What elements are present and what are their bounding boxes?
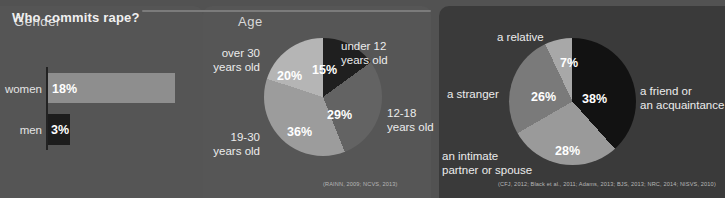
pie-label-under12: under 12years old <box>341 40 388 67</box>
pie-slice-value-stranger: 26% <box>531 90 556 104</box>
pie-label-12-18: 12-18years old <box>387 107 434 134</box>
bar-category-women: women <box>0 83 42 95</box>
pie-slice-value-19-30: 36% <box>287 125 312 139</box>
pie-slice-value-relative: 7% <box>560 56 578 70</box>
panel-divider <box>142 10 431 12</box>
citation-age: (RAINN, 2009; NCVS, 2013) <box>323 181 398 187</box>
pie-label-friend: a friend oran acquaintance <box>640 85 724 112</box>
panel-title-perpetrator: Who commits rape? <box>12 10 140 25</box>
pie-slice-value-intimate: 28% <box>555 144 580 158</box>
infographic-root: WHO ARE THE VICTIMS? Gender Age women me… <box>0 0 725 198</box>
pie-slice-value-friend: 38% <box>582 92 607 106</box>
pie-label-19-30: 19-30years old <box>196 131 260 158</box>
pie-label-relative: a relative <box>497 31 544 45</box>
pie-label-over30: over 30years old <box>198 47 260 74</box>
citation-perpetrator: (CFJ, 2012; Black et al., 2011; Adams, 2… <box>498 181 716 187</box>
pie-label-intimate: an intimatepartner or spouse <box>442 150 532 177</box>
page-title: WHO ARE THE VICTIMS? <box>8 0 246 5</box>
pie-slice-value-over30: 20% <box>277 69 302 83</box>
panel-label-age: Age <box>238 14 263 29</box>
bar-value-men: 3% <box>51 123 69 137</box>
bar-category-men: men <box>0 124 42 136</box>
pie-slice-value-12-18: 29% <box>327 108 352 122</box>
bar-value-women: 18% <box>52 82 77 96</box>
pie-slice-value-under12: 15% <box>312 63 337 77</box>
pie-label-stranger: a stranger <box>447 88 499 102</box>
